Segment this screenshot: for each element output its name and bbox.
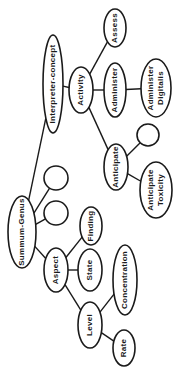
edge-activity-to-assess bbox=[90, 42, 108, 74]
node-label: Digitalis bbox=[156, 71, 165, 105]
edge-level-to-rate bbox=[101, 333, 114, 341]
node-state: State bbox=[78, 249, 102, 291]
edge-anticipate-to-anticipate-toxicity bbox=[127, 174, 140, 182]
node-empty-sg-2 bbox=[44, 201, 68, 225]
edge-activity-to-anticipate bbox=[89, 107, 108, 149]
edge-level-to-concentration bbox=[100, 294, 114, 312]
empty-node-circle bbox=[137, 124, 159, 146]
node-anticipate: Anticipate bbox=[104, 144, 128, 190]
node-interpreter: Interpreter-concept bbox=[43, 35, 63, 133]
node-administer: Administer bbox=[104, 63, 126, 117]
node-empty-anticipate bbox=[137, 124, 159, 146]
concept-tree-diagram: Interpreter-conceptActivityAssessAdminis… bbox=[0, 0, 190, 377]
node-label: Assess bbox=[110, 13, 119, 43]
node-label: Interpreter-concept bbox=[48, 44, 57, 123]
node-label: Anticipate bbox=[111, 146, 120, 188]
edge-interpreter-to-activity bbox=[63, 86, 69, 87]
node-rate: Rate bbox=[113, 330, 135, 366]
empty-node-circle bbox=[44, 166, 68, 190]
node-assess: Assess bbox=[104, 9, 126, 47]
node-activity: Activity bbox=[69, 67, 93, 113]
node-administer-digitalis: AdministerDigitalis bbox=[141, 59, 171, 117]
node-label: Concentration bbox=[120, 251, 129, 309]
node-finding: Finding bbox=[80, 207, 102, 245]
node-label: Anticipate bbox=[146, 169, 155, 211]
node-label: Administer bbox=[110, 68, 119, 113]
node-label: Level bbox=[85, 314, 94, 336]
node-label: Aspect bbox=[51, 256, 60, 285]
node-label: Activity bbox=[76, 74, 85, 106]
edge-administer-to-administer-digitalis bbox=[126, 89, 141, 90]
node-summum-genus: Summum-Genus bbox=[8, 196, 36, 268]
node-label: Toxicity bbox=[156, 174, 165, 206]
node-label: Rate bbox=[119, 338, 128, 357]
node-label: State bbox=[85, 259, 94, 280]
edge-anticipate-to-empty-anticipate bbox=[127, 143, 141, 157]
node-aspect: Aspect bbox=[44, 248, 68, 292]
edge-aspect-to-level bbox=[65, 285, 81, 311]
node-level: Level bbox=[78, 302, 102, 348]
edge-summum-genus-to-empty-sg-2 bbox=[36, 219, 46, 225]
node-concentration: Concentration bbox=[113, 245, 137, 315]
edge-aspect-to-finding bbox=[66, 237, 82, 257]
node-anticipate-toxicity: AnticipateToxicity bbox=[140, 162, 172, 218]
node-label: Finding bbox=[86, 211, 95, 242]
edge-summum-genus-to-aspect bbox=[35, 246, 46, 258]
edge-summum-genus-to-interpreter bbox=[29, 118, 46, 200]
nodes: Interpreter-conceptActivityAssessAdminis… bbox=[8, 9, 172, 366]
node-label: Summum-Genus bbox=[17, 198, 26, 266]
empty-node-circle bbox=[44, 201, 68, 225]
node-empty-sg-1 bbox=[44, 166, 68, 190]
node-label: Administer bbox=[146, 66, 155, 111]
